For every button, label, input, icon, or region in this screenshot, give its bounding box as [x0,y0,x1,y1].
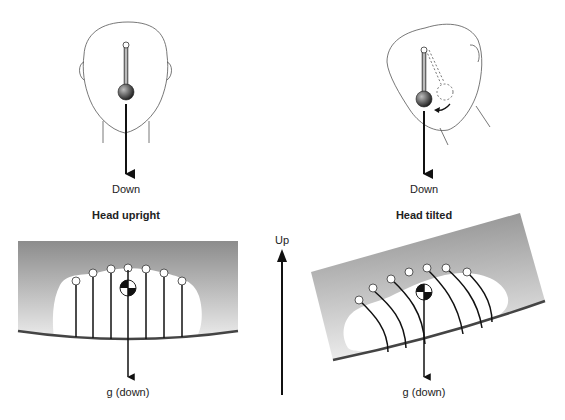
pendulum-rod [422,52,426,96]
pendulum-pivot [123,42,129,48]
gravity-label-right: g (down) [403,386,446,398]
down-label-left: Down [112,183,140,195]
panel-title-head-tilted: Head tilted [396,209,452,221]
up-label: Up [275,234,289,246]
panel-title-head-upright: Head upright [92,209,160,221]
head-tilted-illustration [387,24,490,174]
otolith-diagram: Down Head upright Down Head tilted [0,0,565,420]
up-arrowhead-icon [277,249,287,262]
pendulum-pivot [421,47,427,53]
head-upright-illustration [80,22,172,174]
macula-upright [18,241,238,377]
pendulum-bob [118,84,134,100]
gravity-label-left: g (down) [107,386,150,398]
head-outline [387,24,482,130]
neck-back [476,106,490,127]
macula-tilted [311,213,545,377]
pendulum-bob [416,91,432,107]
down-label-right: Down [410,183,438,195]
